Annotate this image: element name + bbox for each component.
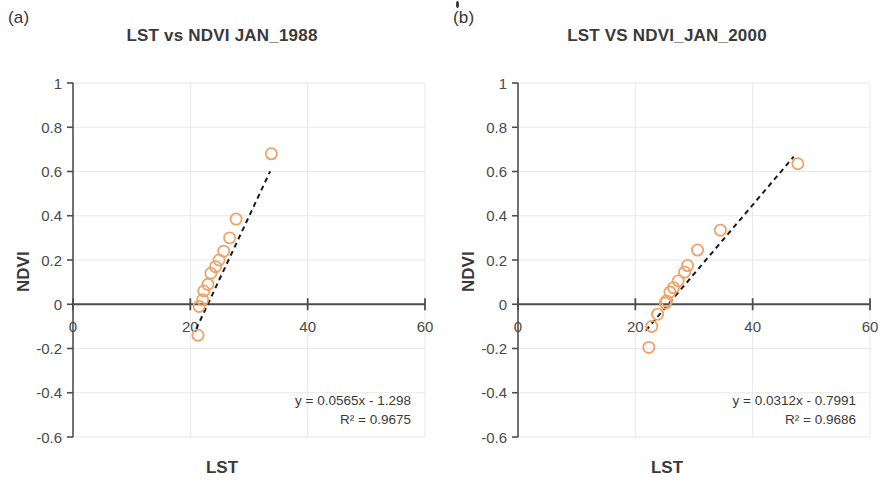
data-point-marker[interactable] [230,213,241,224]
data-point-marker[interactable] [682,260,693,271]
x-axis-tick-label: 40 [299,318,316,335]
x-axis-tick-label: 20 [627,318,644,335]
y-axis-tick-label: -0.2 [36,340,62,357]
y-axis-tick-label: -0.4 [481,384,507,401]
data-point-marker[interactable] [692,244,703,255]
plot-area-b: -0.6-0.4-0.200.20.40.60.810204060y = 0.0… [445,0,889,484]
y-axis-tick-label: 0.4 [486,207,507,224]
y-axis-title-a: NDVI [14,251,34,292]
data-point-marker[interactable] [194,301,205,312]
x-axis-tick-label: 0 [514,318,522,335]
data-point-marker[interactable] [643,342,654,353]
chart-panel-b: (b) LST VS NDVI_JAN_2000 -0.6-0.4-0.200.… [445,0,889,484]
x-axis-tick-label: 60 [417,318,434,335]
y-axis-tick-label: -0.6 [481,429,507,446]
y-axis-tick-label: 0.8 [486,119,507,136]
x-axis-tick-label: 60 [862,318,879,335]
y-axis-title-b: NDVI [459,251,479,292]
figure-container: (a) LST vs NDVI JAN_1988 -0.6-0.4-0.200.… [0,0,889,484]
data-point-marker[interactable] [652,309,663,320]
data-point-marker[interactable] [792,158,803,169]
data-point-marker[interactable] [218,246,229,257]
y-axis-tick-label: 1 [54,75,62,92]
y-axis-tick-label: -0.2 [481,340,507,357]
x-axis-title-a: LST [0,458,444,478]
y-axis-tick-label: -0.6 [36,429,62,446]
trendline-equation-label: y = 0.0312x - 0.7991 [733,393,856,408]
trendline-equation-label: y = 0.0565x - 1.298 [295,393,411,408]
x-axis-title-b: LST [445,458,889,478]
data-point-marker[interactable] [266,148,277,159]
x-axis-tick-label: 0 [69,318,77,335]
data-point-marker[interactable] [679,267,690,278]
y-axis-tick-label: 0.6 [486,163,507,180]
y-axis-tick-label: 0.2 [486,252,507,269]
x-axis-tick-label: 40 [744,318,761,335]
y-axis-tick-label: 0 [54,296,62,313]
y-axis-tick-label: -0.4 [36,384,62,401]
y-axis-tick-label: 0 [499,296,507,313]
r-squared-label: R² = 0.9675 [340,412,411,427]
trendline [196,171,270,329]
y-axis-tick-label: 0.8 [41,119,62,136]
data-point-marker[interactable] [224,232,235,243]
r-squared-label: R² = 0.9686 [785,412,856,427]
y-axis-tick-label: 0.4 [41,207,62,224]
plot-area-a: -0.6-0.4-0.200.20.40.60.810204060y = 0.0… [0,0,444,484]
y-axis-tick-label: 1 [499,75,507,92]
y-axis-tick-label: 0.2 [41,252,62,269]
y-axis-tick-label: 0.6 [41,163,62,180]
scan-artifact-speck [456,1,459,8]
data-point-marker[interactable] [715,225,726,236]
chart-panel-a: (a) LST vs NDVI JAN_1988 -0.6-0.4-0.200.… [0,0,444,484]
